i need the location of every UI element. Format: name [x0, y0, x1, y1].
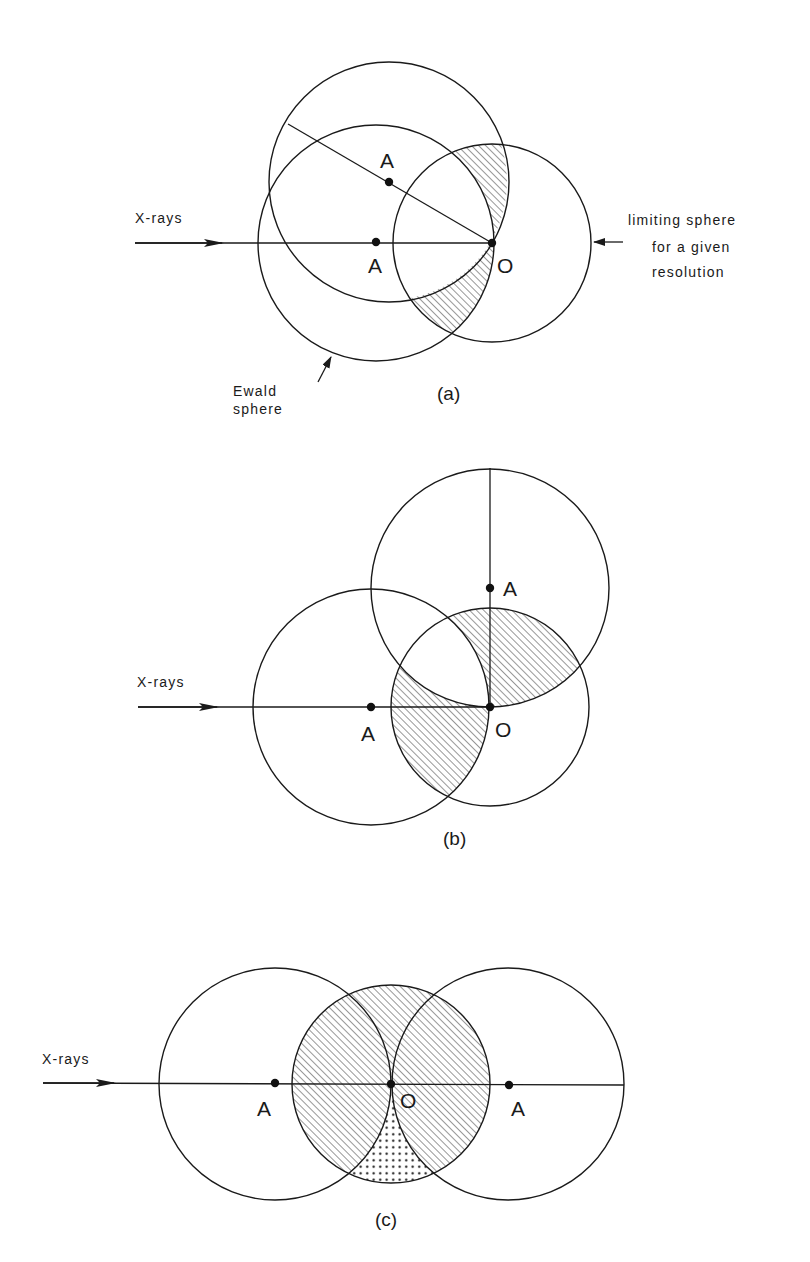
center-dot-rotated: [385, 178, 393, 186]
ewald-label-line2: sphere: [233, 401, 283, 417]
label-origin: O: [495, 718, 511, 741]
label-a-center: A: [361, 722, 375, 745]
center-dot: [372, 238, 380, 246]
origin-dot: [387, 1080, 395, 1088]
center-dot-right: [505, 1081, 513, 1089]
xray-label: X-rays: [42, 1051, 90, 1067]
caption-b: (b): [443, 828, 466, 849]
origin-dot: [486, 703, 494, 711]
center-dot-rotated: [486, 584, 494, 592]
caption-a: (a): [437, 383, 460, 404]
xray-label: X-rays: [135, 210, 183, 226]
panel-c: A O A X-rays (c): [42, 968, 624, 1230]
label-a-left: A: [257, 1097, 271, 1120]
hatched-region-a: [258, 64, 507, 361]
label-a-center: A: [368, 254, 382, 277]
xray-label: X-rays: [137, 674, 185, 690]
caption-c: (c): [375, 1209, 397, 1230]
limiting-label-line1: limiting sphere: [628, 212, 736, 228]
panel-b: A A O X-rays (b): [137, 468, 609, 849]
panel-a: A A O X-rays Ewald sphere limiting spher…: [135, 62, 736, 417]
hatched-region-b: [253, 469, 609, 825]
label-a-right: A: [511, 1097, 525, 1120]
center-dot-left: [271, 1079, 279, 1087]
limiting-label-line2: for a given: [652, 239, 731, 255]
limiting-label-line3: resolution: [652, 264, 725, 280]
center-dot: [367, 703, 375, 711]
origin-dot: [488, 239, 496, 247]
ewald-sphere-figure: A A O X-rays Ewald sphere limiting spher…: [0, 0, 810, 1262]
label-origin: O: [400, 1089, 416, 1112]
ewald-label-line1: Ewald: [233, 383, 277, 399]
ewald-pointer-arrow: [318, 357, 331, 382]
stippled-blind-region: [280, 1084, 510, 1194]
label-a-rotated: A: [503, 577, 517, 600]
label-a-rotated: A: [380, 149, 394, 172]
label-origin: O: [497, 254, 513, 277]
